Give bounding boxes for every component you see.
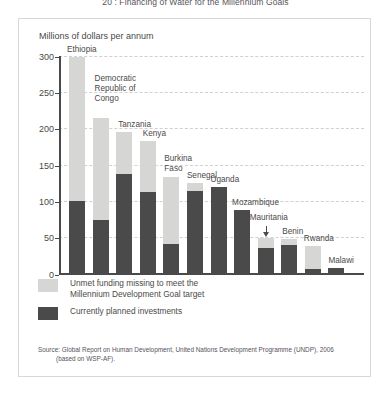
y-tick-mark-0	[55, 275, 59, 276]
bar-segment-unmet	[305, 246, 321, 269]
y-tick-label-300: 300	[39, 52, 54, 62]
figure-supertitle: 20 : Financing of Water for the Millenni…	[0, 0, 391, 7]
bar-rwanda[interactable]	[305, 246, 321, 273]
category-label-line: Malawi	[328, 256, 353, 266]
bar-segment-unmet	[140, 141, 156, 192]
bar-malawi[interactable]	[328, 268, 344, 273]
source-line-1: Source: Global Report on Human Developme…	[38, 346, 334, 353]
category-label-line: Kenya	[143, 129, 166, 139]
gridline-300: 300	[59, 56, 364, 57]
category-label-rwanda: Rwanda	[304, 234, 334, 244]
legend-item-1[interactable]: Currently planned investments	[38, 306, 338, 320]
bar-mauritania[interactable]	[258, 238, 274, 273]
y-tick-label-200: 200	[39, 124, 54, 134]
category-label-line: Republic of	[95, 84, 136, 94]
category-label-democratic-republic-of-congo: DemocraticRepublic ofCongo	[95, 74, 136, 104]
bar-segment-planned	[116, 174, 132, 273]
bar-segment-unmet	[163, 177, 179, 244]
category-label-line: Uganda	[211, 175, 240, 185]
legend-label-1: Currently planned investments	[70, 306, 182, 317]
source-note: Source: Global Report on Human Developme…	[38, 345, 348, 363]
category-label-line: Mozambique	[232, 198, 279, 208]
category-label-line: Benin	[282, 227, 303, 237]
bar-segment-planned	[234, 210, 250, 273]
y-tick-label-50: 50	[44, 233, 54, 243]
bar-burkina-faso[interactable]	[163, 177, 179, 273]
category-label-line: Mauritania	[250, 213, 288, 223]
legend-label-line: Unmet funding missing to meet the	[70, 278, 204, 289]
bar-segment-unmet	[258, 238, 274, 247]
bar-tanzania[interactable]	[116, 132, 132, 273]
bar-democratic-republic-of-congo[interactable]	[93, 117, 109, 273]
bar-segment-planned	[281, 245, 297, 273]
bar-uganda[interactable]	[211, 187, 227, 273]
category-label-mauritania: Mauritania	[250, 213, 288, 223]
legend-swatch-1	[38, 307, 58, 320]
legend-label-line: Currently planned investments	[70, 306, 182, 317]
bar-segment-unmet	[69, 57, 85, 200]
bar-segment-planned	[163, 244, 179, 273]
category-label-line: Rwanda	[304, 234, 334, 244]
chart-legend: Unmet funding missing to meet theMillenn…	[38, 278, 338, 327]
category-label-ethiopia: Ethiopia	[67, 45, 97, 55]
y-tick-label-250: 250	[39, 88, 54, 98]
bar-kenya[interactable]	[140, 141, 156, 273]
bar-segment-unmet	[116, 132, 132, 174]
category-label-benin: Benin	[282, 227, 303, 237]
bar-ethiopia[interactable]	[69, 57, 85, 273]
mauritania-arrow-icon	[263, 232, 269, 237]
legend-swatch-0	[38, 279, 58, 292]
category-label-line: Congo	[95, 94, 136, 104]
gridline-0: 0	[59, 273, 364, 275]
source-line-2: (based on WSP-AF).	[38, 354, 348, 363]
y-tick-label-150: 150	[39, 161, 54, 171]
bar-segment-planned	[187, 191, 203, 273]
legend-label-line: Millennium Development Goal target	[70, 289, 204, 300]
category-label-line: Democratic	[95, 74, 136, 84]
bar-segment-planned	[211, 187, 227, 273]
bar-mozambique[interactable]	[234, 210, 250, 273]
bar-senegal[interactable]	[187, 183, 203, 273]
bar-segment-unmet	[187, 183, 203, 192]
legend-label-0: Unmet funding missing to meet theMillenn…	[70, 278, 204, 299]
category-label-kenya: Kenya	[143, 129, 166, 139]
plot-area: 050100150200250300EthiopiaDemocraticRepu…	[59, 56, 364, 273]
category-label-line: Burkina	[164, 154, 192, 164]
y-tick-label-100: 100	[39, 197, 54, 207]
legend-item-0[interactable]: Unmet funding missing to meet theMillenn…	[38, 278, 338, 299]
bar-segment-planned	[258, 248, 274, 273]
bar-segment-planned	[328, 268, 344, 273]
bar-segment-planned	[305, 269, 321, 273]
bar-benin[interactable]	[281, 239, 297, 273]
category-label-malawi: Malawi	[328, 256, 353, 266]
category-label-line: Ethiopia	[67, 45, 97, 55]
y-axis-title: Millions of dollars per annum	[39, 31, 154, 41]
category-label-mozambique: Mozambique	[232, 198, 279, 208]
category-label-uganda: Uganda	[211, 175, 240, 185]
bar-segment-planned	[93, 220, 109, 273]
bar-segment-planned	[69, 201, 85, 273]
y-axis-line	[59, 56, 61, 273]
bar-segment-planned	[140, 192, 156, 273]
bar-segment-unmet	[93, 118, 109, 221]
